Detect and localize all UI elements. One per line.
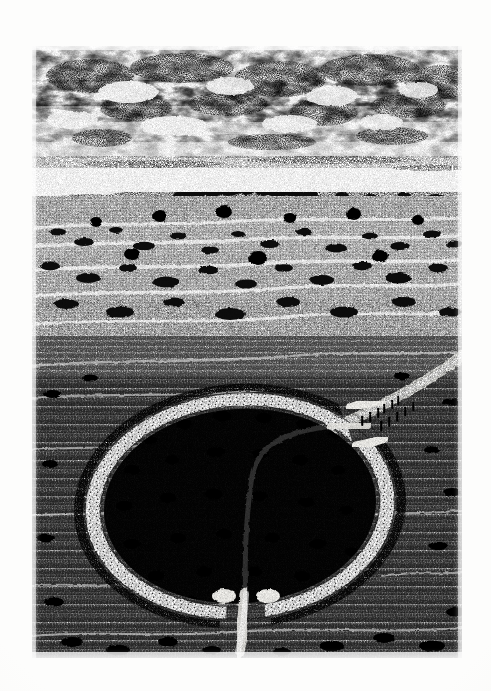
ink-drawing-canvas bbox=[32, 46, 462, 658]
caption-text bbox=[0, 0, 1, 1]
human-figure bbox=[404, 407, 406, 416]
human-figure bbox=[369, 412, 372, 422]
human-figure bbox=[377, 408, 380, 418]
horizon-label-text: Distant wooded ridge line bbox=[0, 0, 1, 1]
middle-ground-label-text: Open grass plain with scattered scrub an… bbox=[0, 0, 1, 1]
human-figure bbox=[388, 417, 391, 427]
sky-label-text: Overcast stippled sky bbox=[0, 0, 1, 1]
trackway-label-text: Approach trackway from the north-east bbox=[0, 0, 1, 1]
human-figure bbox=[380, 421, 383, 432]
foreground-label-text: Close grassland with vertical hatching bbox=[0, 0, 1, 1]
human-figure bbox=[412, 402, 414, 411]
figures-label-text: Human figures walking the causeway bbox=[0, 0, 1, 1]
human-figure bbox=[383, 404, 385, 414]
monument-description-text: Oval chalk bank and internal ditch with … bbox=[0, 0, 1, 1]
monument-name-text: Circular enclosure earthwork bbox=[0, 0, 1, 1]
human-figure bbox=[396, 412, 398, 422]
illustration-plate bbox=[32, 46, 462, 658]
cloud-puffs bbox=[46, 53, 462, 150]
illustration-page: Aerial reconstruction of a prehistoric c… bbox=[0, 0, 491, 691]
human-figure bbox=[361, 416, 364, 426]
human-figure bbox=[391, 400, 393, 409]
image-subject-text: Aerial reconstruction of a prehistoric c… bbox=[0, 0, 1, 1]
sky-region bbox=[32, 46, 462, 198]
human-figure bbox=[397, 396, 399, 405]
